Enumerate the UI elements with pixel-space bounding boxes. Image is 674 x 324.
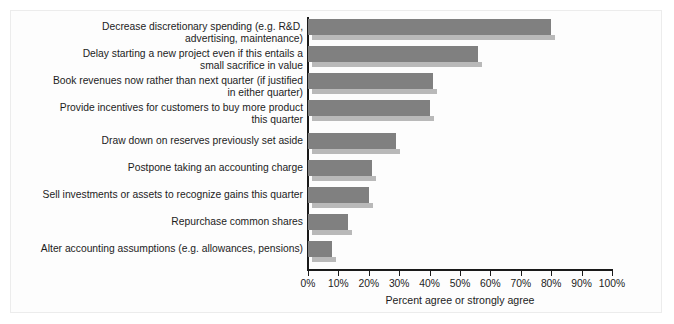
x-axis-tick-label: 80% <box>541 278 562 289</box>
x-axis-tick <box>612 271 613 276</box>
bar-shadow <box>312 230 352 235</box>
x-axis-tick-label: 70% <box>510 278 531 289</box>
category-label: Provide incentives for customers to buy … <box>19 102 303 125</box>
bar-shadow <box>312 62 482 67</box>
x-axis-tick-label: 30% <box>389 278 410 289</box>
bar-shadow <box>312 35 555 40</box>
category-label: Decrease discretionary spending (e.g. R&… <box>19 21 303 44</box>
x-axis-tick <box>460 271 461 276</box>
x-axis-tick <box>490 271 491 276</box>
bar-sell-investments-or-assets <box>308 187 369 203</box>
category-axis-labels: Decrease discretionary spending (e.g. R&… <box>19 19 303 268</box>
x-axis-tick-label: 90% <box>571 278 592 289</box>
x-axis-tick <box>308 271 309 276</box>
category-label: Repurchase common shares <box>19 216 303 228</box>
x-axis-tick <box>399 271 400 276</box>
category-label: Delay starting a new project even if thi… <box>19 48 303 71</box>
bar-alter-accounting-assumptions <box>308 241 332 257</box>
bar-postpone-accounting-charge <box>308 160 372 176</box>
x-axis-tick-label: 100% <box>599 278 625 289</box>
category-label: Book revenues now rather than next quart… <box>19 75 303 98</box>
x-axis-tick-label: 40% <box>419 278 440 289</box>
bar-decrease-discretionary-spending <box>308 19 551 35</box>
bar-shadow <box>312 176 376 181</box>
x-axis-tick-label: 0% <box>301 278 316 289</box>
bar-shadow <box>312 203 373 208</box>
bar-delay-starting-new-project <box>308 46 478 62</box>
x-axis-tick <box>430 271 431 276</box>
x-axis-tick <box>369 271 370 276</box>
bar-provide-incentives <box>308 100 430 116</box>
x-axis-tick <box>551 271 552 276</box>
bar-shadow <box>312 149 400 154</box>
bar-repurchase-common-shares <box>308 214 348 230</box>
category-label: Postpone taking an accounting charge <box>19 162 303 174</box>
category-label: Sell investments or assets to recognize … <box>19 189 303 201</box>
bar-book-revenues-now <box>308 73 433 89</box>
category-label: Alter accounting assumptions (e.g. allow… <box>19 243 303 255</box>
x-axis-tick-label: 10% <box>328 278 349 289</box>
bar-shadow <box>312 257 336 262</box>
bar-shadow <box>312 89 437 94</box>
bar-shadow <box>312 116 434 121</box>
plot-area <box>308 19 612 268</box>
x-axis-tick <box>582 271 583 276</box>
chart-figure: Decrease discretionary spending (e.g. R&… <box>10 10 662 313</box>
x-axis-tick <box>521 271 522 276</box>
x-axis-title: Percent agree or strongly agree <box>308 294 612 306</box>
x-axis-tick-label: 60% <box>480 278 501 289</box>
category-label: Draw down on reserves previously set asi… <box>19 135 303 147</box>
x-axis-tick-label: 50% <box>450 278 471 289</box>
x-axis-tick <box>338 271 339 276</box>
x-axis-tick-label: 20% <box>358 278 379 289</box>
bar-draw-down-reserves <box>308 133 396 149</box>
